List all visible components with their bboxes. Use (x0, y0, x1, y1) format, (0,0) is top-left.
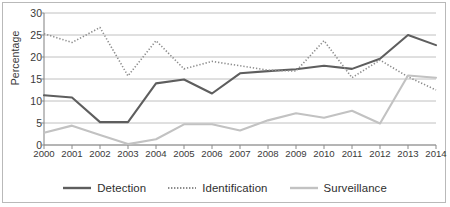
x-tick-label: 2010 (313, 149, 334, 159)
series-line-surveillance (44, 75, 436, 144)
x-tick-label: 2008 (257, 149, 278, 159)
gridlines (44, 13, 436, 145)
x-tick-label: 2004 (145, 149, 166, 159)
legend-label: Detection (97, 182, 146, 194)
chart-legend: DetectionIdentificationSurveillance (0, 178, 450, 198)
plot-canvas (0, 0, 450, 207)
x-tick-label: 2003 (117, 149, 138, 159)
x-tick-label: 2013 (397, 149, 418, 159)
x-tick-label: 2006 (201, 149, 222, 159)
legend-item[interactable]: Surveillance (290, 182, 387, 194)
x-tick-label: 2000 (33, 149, 54, 159)
series-lines (44, 28, 436, 145)
dotted-line-swatch (168, 183, 196, 193)
x-tick-label: 2009 (285, 149, 306, 159)
x-tick-label: 2002 (89, 149, 110, 159)
line-chart: Percentage 051015202530 2000200120022003… (0, 0, 450, 207)
x-tick-label: 2001 (61, 149, 82, 159)
legend-item[interactable]: Detection (63, 182, 146, 194)
solid-line-swatch (290, 183, 318, 193)
legend-label: Identification (202, 182, 267, 194)
solid-line-swatch (63, 183, 91, 193)
x-tick-label: 2014 (425, 149, 446, 159)
x-tick-label: 2005 (173, 149, 194, 159)
x-tick-label: 2011 (342, 149, 363, 159)
legend-item[interactable]: Identification (168, 182, 267, 194)
x-tick-label: 2012 (369, 149, 390, 159)
x-axis-tick-labels: 2000200120022003200420052006200720082009… (44, 149, 436, 163)
x-tick-label: 2007 (229, 149, 250, 159)
legend-label: Surveillance (324, 182, 387, 194)
